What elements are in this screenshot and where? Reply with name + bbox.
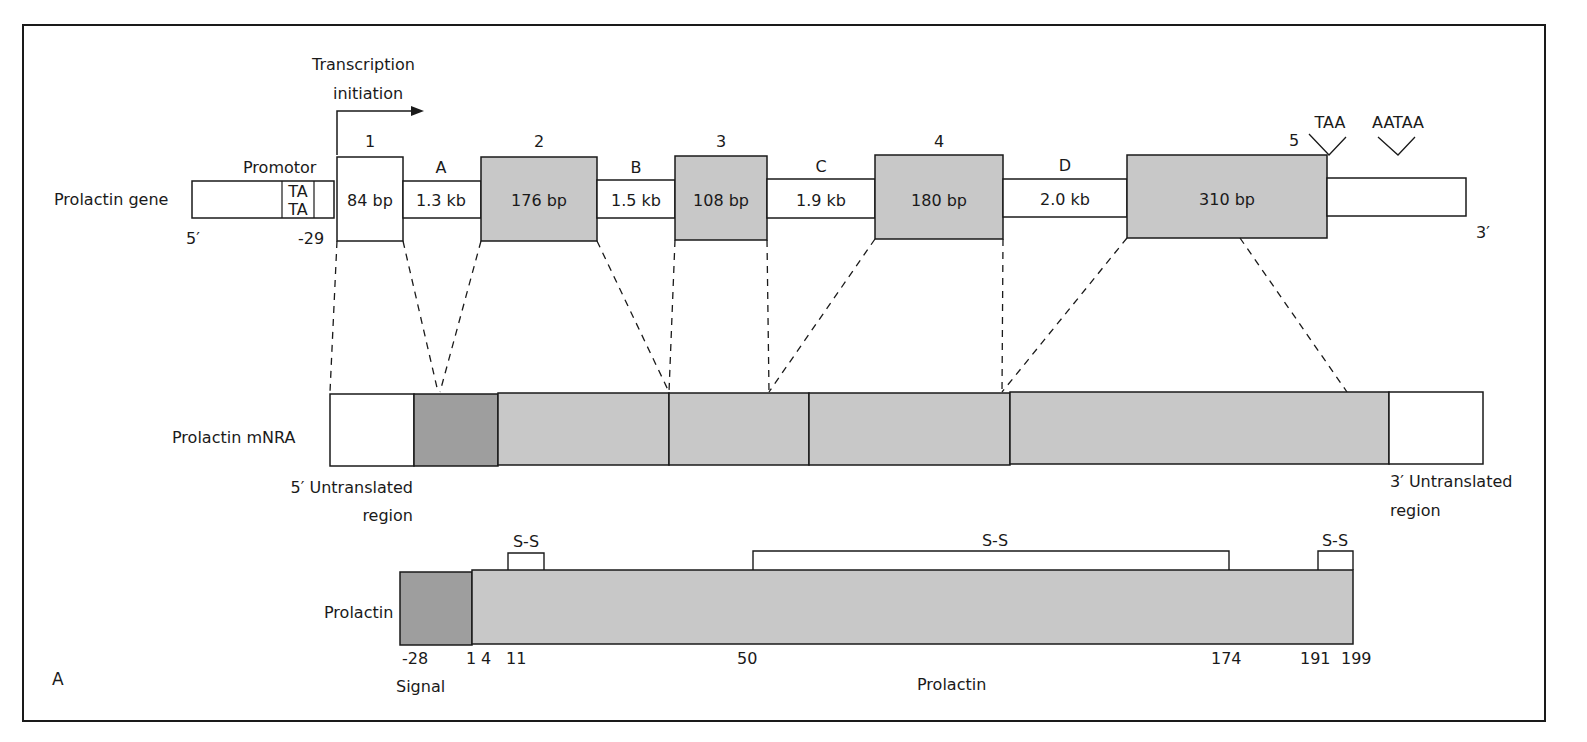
stop-codon-label: TAA [1314,113,1346,132]
exon-2-number: 2 [534,132,544,151]
exon-1-size: 84 bp [347,191,393,210]
transcription-label-line2: initiation [333,84,403,103]
mrna-label: Prolactin mNRA [172,428,295,447]
disulfide-bond-50-174 [753,551,1229,570]
utr3-label-line1: 3′ Untranslated [1390,472,1512,491]
arrowhead-icon [411,106,424,116]
signal-peptide [400,572,472,645]
transcription-arrow-icon [337,111,414,155]
exon-4-number: 4 [934,132,944,151]
intron-a-letter: A [436,158,447,177]
five-prime-end-gene: 5′ [186,229,200,248]
gene-3prime-flank [1327,178,1466,216]
exon-4-size: 180 bp [911,191,967,210]
mrna-signal-segment [414,394,498,466]
intron-d-size: 2.0 kb [1040,190,1090,209]
utr3-label-line2: region [1390,501,1441,520]
intron-c-letter: C [815,157,826,176]
promoter-label: Promotor [243,158,317,177]
intron-d-letter: D [1059,156,1071,175]
polya-signal-label: AATAA [1372,113,1424,132]
mrna-exon-3-segment [669,393,809,465]
disulfide-bond-191-199 [1318,551,1353,570]
disulfide-label-2: S-S [982,531,1008,550]
exon-3-number: 3 [716,132,726,151]
tata-box-top: TA [287,182,308,201]
mature-prolactin [472,570,1353,644]
gene-label: Prolactin gene [54,190,168,209]
protein-label: Prolactin [324,603,393,622]
exon-5-number: 5 [1289,131,1299,150]
protein-row: Prolactin S-S S-S S-S -28 1 4 11 50 174 … [324,531,1372,696]
gene-5prime-flank [192,181,334,218]
position-minus28: -28 [402,649,428,668]
disulfide-label-3: S-S [1322,531,1348,550]
signal-label: Signal [396,677,445,696]
polya-signal-marker-icon [1378,137,1415,155]
position-199: 199 [1341,649,1372,668]
exon-1-number: 1 [365,132,375,151]
position-4: 4 [481,649,491,668]
gene-row: Prolactin gene TA TA Promotor 5′ -29 Tra… [54,55,1490,248]
mrna-row: Prolactin mNRA 5′ Untranslated region 3′… [172,392,1512,525]
mature-prolactin-label: Prolactin [917,675,986,694]
panel-label: A [52,669,64,689]
position-1: 1 [466,649,476,668]
intron-b-letter: B [631,158,642,177]
stop-codon-marker-icon [1309,134,1346,155]
promoter-position: -29 [298,229,324,248]
mrna-exon-2-segment [498,393,669,465]
intron-a-size: 1.3 kb [416,191,466,210]
mrna-exon-5-segment [1010,392,1389,464]
prolactin-gene-diagram: A Prolactin gene TA TA Promotor 5′ -29 T… [0,0,1587,742]
mrna-3utr [1389,392,1483,464]
disulfide-label-1: S-S [513,532,539,551]
mrna-exon-4-segment [809,393,1010,465]
intron-c-size: 1.9 kb [796,191,846,210]
position-50: 50 [737,649,757,668]
three-prime-end-gene: 3′ [1476,223,1490,242]
exon-5-size: 310 bp [1199,190,1255,209]
utr5-label-line1: 5′ Untranslated [291,478,413,497]
position-191: 191 [1300,649,1331,668]
splicing-connectors [330,238,1347,392]
mrna-5utr [330,394,414,466]
position-174: 174 [1211,649,1242,668]
tata-box-bottom: TA [287,200,308,219]
disulfide-bond-4-11 [508,553,544,571]
position-11: 11 [506,649,526,668]
transcription-label-line1: Transcription [311,55,415,74]
exon-2-size: 176 bp [511,191,567,210]
exon-3-size: 108 bp [693,191,749,210]
intron-b-size: 1.5 kb [611,191,661,210]
utr5-label-line2: region [362,506,413,525]
